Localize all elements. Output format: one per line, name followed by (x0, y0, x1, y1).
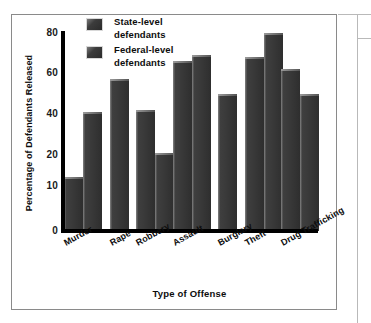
bar-murder-state (64, 177, 83, 231)
bar-chart: 01020406080 Percentage of Defendants Rel… (0, 0, 371, 323)
legend: State-level defendants Federal-level def… (86, 16, 236, 72)
legend-item-federal: Federal-level defendants (86, 44, 236, 72)
bar-robbery-federal (155, 153, 174, 231)
x-axis-title: Type of Offense (61, 288, 318, 299)
bar-rape-federal (110, 79, 129, 231)
legend-label-federal-line2: defendants (114, 57, 173, 70)
chart-page: 01020406080 Percentage of Defendants Rel… (0, 0, 371, 323)
y-tick-label-0: 0 (36, 225, 58, 236)
legend-label-state: State-level defendants (114, 16, 166, 41)
legend-swatch-icon-state (86, 18, 103, 31)
legend-label-state-line1: State-level (114, 16, 166, 29)
y-tick-label-80: 80 (36, 27, 58, 38)
y-axis-title: Percentage of Defendants Released (24, 38, 34, 228)
y-axis-line (61, 31, 65, 233)
legend-label-federal-line1: Federal-level (114, 44, 173, 57)
bar-drug-trafficking-state (281, 69, 300, 231)
legend-label-federal: Federal-level defendants (114, 44, 173, 69)
bar-murder-federal (83, 112, 102, 231)
y-tick-label-40: 40 (36, 108, 58, 119)
bar-theft-federal (264, 33, 283, 231)
legend-item-state: State-level defendants (86, 16, 236, 44)
bar-burglary-federal (218, 94, 237, 232)
bar-theft-state (245, 57, 264, 231)
y-tick-label-60: 60 (36, 67, 58, 78)
bar-assault-state (173, 61, 192, 231)
bar-drug-trafficking-federal (300, 94, 319, 232)
bar-robbery-state (136, 110, 155, 231)
legend-label-state-line2: defendants (114, 29, 166, 42)
y-tick-label-10: 10 (36, 180, 58, 191)
y-axis-ticks: 01020406080 (33, 0, 58, 323)
y-tick-label-20: 20 (36, 149, 58, 160)
bar-assault-federal (192, 55, 211, 231)
legend-swatch-icon-federal (86, 46, 103, 59)
